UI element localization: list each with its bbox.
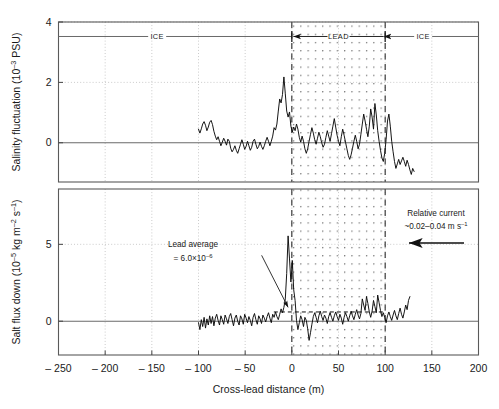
- x-tick-label: 0: [289, 362, 295, 374]
- x-tick-label: – 100: [185, 362, 211, 374]
- cross-lead-salinity-saltflux-chart: 024 ICE LEAD ICE Salinity fluctuation (1…: [0, 0, 499, 409]
- y-tick-label: 2: [46, 76, 52, 88]
- x-tick-label: – 50: [235, 362, 256, 374]
- y-tick-label: 5: [46, 238, 52, 250]
- y-tick-label: 4: [46, 16, 52, 28]
- lead-average-value: = 6.0×10: [174, 254, 207, 263]
- x-tick-label: 50: [333, 362, 345, 374]
- figure-background: [0, 0, 499, 409]
- lead-average-exponent: –6: [206, 253, 213, 259]
- figure-container: 024 ICE LEAD ICE Salinity fluctuation (1…: [0, 0, 499, 409]
- relative-current-line1: Relative current: [407, 209, 465, 218]
- x-tick-label: – 200: [92, 362, 118, 374]
- y-tick-label: 0: [46, 315, 52, 327]
- relative-current-line2: ~0.02–0.04 m s–1: [404, 221, 467, 231]
- x-tick-label: 200: [470, 362, 488, 374]
- y-axis-label-salinity: Salinity fluctuation (10–3 PSU): [9, 33, 22, 172]
- region-label-lead: LEAD: [328, 32, 349, 41]
- relative-current-value: ~0.02–0.04 m s: [404, 222, 461, 231]
- x-tick-label: 100: [376, 362, 394, 374]
- lead-average-line1: Lead average: [168, 240, 219, 249]
- y-tick-label: 0: [46, 136, 52, 148]
- region-label-ice-right: ICE: [416, 32, 430, 41]
- x-tick-label: – 150: [139, 362, 165, 374]
- lead-region-fill-salinity: [292, 22, 385, 182]
- region-label-ice-left: ICE: [150, 32, 164, 41]
- x-tick-label: 150: [423, 362, 441, 374]
- x-tick-label: – 250: [45, 362, 71, 374]
- x-axis-label: Cross-lead distance (m): [213, 383, 324, 395]
- relative-current-exponent: –1: [461, 221, 468, 227]
